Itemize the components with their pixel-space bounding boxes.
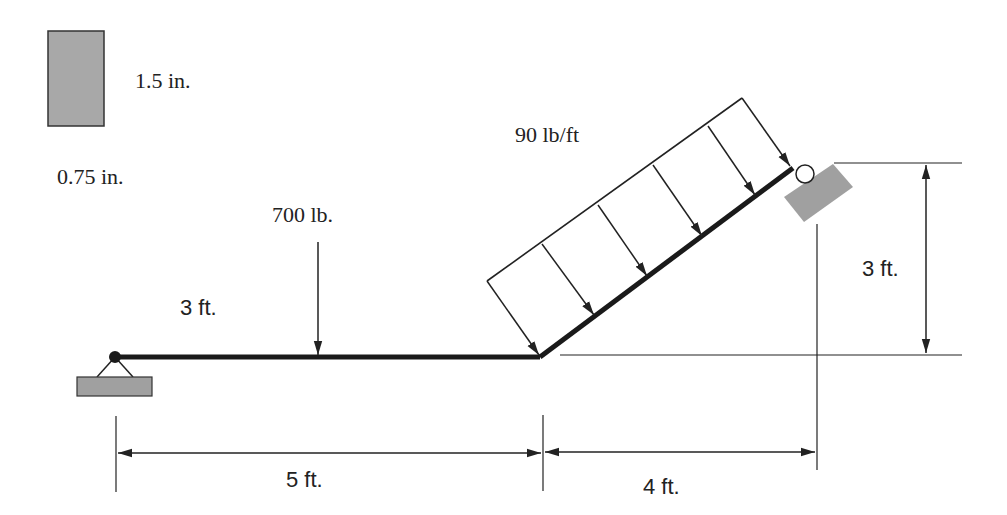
cross-section: 1.5 in. 0.75 in.: [48, 31, 191, 189]
distributed-load-label: 90 lb/ft: [515, 122, 579, 147]
cross-section-height-label: 1.5 in.: [135, 68, 191, 93]
point-load-arrow: 700 lb. 3 ft.: [180, 202, 333, 355]
horizontal-dimensions: 5 ft. 4 ft.: [116, 224, 817, 499]
distributed-load: 90 lb/ft: [487, 98, 790, 355]
beam: [115, 168, 793, 357]
span-2-label: 4 ft.: [643, 474, 680, 499]
vertical-dimension-label: 3 ft.: [862, 256, 899, 281]
span-1-label: 5 ft.: [286, 467, 323, 492]
point-load-position-label: 3 ft.: [180, 295, 217, 320]
roller-support: [784, 164, 853, 222]
beam-diagram: 1.5 in. 0.75 in. 700 lb. 3 ft. 90 lb/ft: [0, 0, 1007, 515]
point-load-label: 700 lb.: [272, 202, 333, 227]
cross-section-width-label: 0.75 in.: [57, 164, 124, 189]
